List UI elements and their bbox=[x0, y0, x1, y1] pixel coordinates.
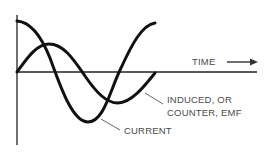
emf-leader-line bbox=[145, 93, 163, 104]
emf-label-line2: COUNTER, EMF bbox=[167, 107, 242, 118]
time-label: TIME bbox=[192, 56, 216, 67]
waveform-diagram: TIME INDUCED, OR COUNTER, EMF CURRENT bbox=[0, 0, 273, 153]
emf-curve bbox=[17, 44, 155, 103]
emf-label-line1: INDUCED, OR bbox=[167, 94, 232, 105]
arrow-right-icon bbox=[227, 59, 258, 66]
current-label: CURRENT bbox=[124, 125, 172, 136]
current-leader-line bbox=[101, 119, 120, 130]
